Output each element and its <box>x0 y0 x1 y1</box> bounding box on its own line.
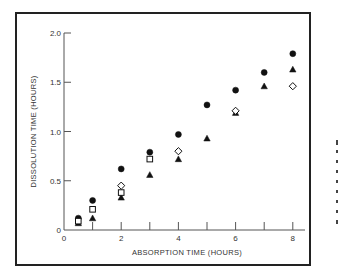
triangle-marker <box>261 83 267 89</box>
circle-marker <box>147 149 153 155</box>
x-tick-label: 2 <box>119 234 124 243</box>
triangle-marker <box>89 215 95 221</box>
triangle-marker <box>290 66 296 72</box>
square-marker <box>90 207 96 213</box>
square-marker <box>118 190 124 196</box>
triangle-marker <box>204 135 210 141</box>
circle-marker <box>204 102 210 108</box>
circle-marker <box>118 166 124 172</box>
diamond-marker <box>289 83 296 90</box>
y-tick-label: 0.5 <box>50 177 62 186</box>
diamond-marker <box>232 107 239 114</box>
axes <box>64 33 305 230</box>
circle-marker <box>261 69 267 75</box>
square-marker <box>76 218 82 224</box>
circle-marker <box>90 197 96 203</box>
circle-marker <box>290 51 296 57</box>
scatter-plot: 0246800.51.01.52.0 ABSORPTION TIME (HOUR… <box>0 0 341 277</box>
circle-marker <box>175 131 181 137</box>
tick-labels: 0246800.51.01.52.0 <box>50 29 296 243</box>
x-axis-title: ABSORPTION TIME (HOURS) <box>132 248 242 257</box>
y-tick-label: 2.0 <box>50 29 62 38</box>
x-tick-label: 8 <box>291 234 296 243</box>
x-tick-label: 6 <box>233 234 238 243</box>
x-tick-label: 0 <box>62 234 67 243</box>
diamond-marker <box>118 182 125 189</box>
y-axis-title: DISSOLUTION TIME (HOURS) <box>29 75 38 187</box>
y-tick-label: 1.5 <box>50 78 62 87</box>
x-tick-label: 4 <box>176 234 181 243</box>
cropped-text-edge <box>336 140 339 240</box>
data-points <box>75 51 296 226</box>
diamond-marker <box>175 148 182 155</box>
triangle-marker <box>175 156 181 162</box>
square-marker <box>147 156 153 162</box>
y-tick-label: 1.0 <box>50 128 62 137</box>
circle-marker <box>233 87 239 93</box>
y-tick-label: 0 <box>57 226 62 235</box>
triangle-marker <box>147 172 153 178</box>
